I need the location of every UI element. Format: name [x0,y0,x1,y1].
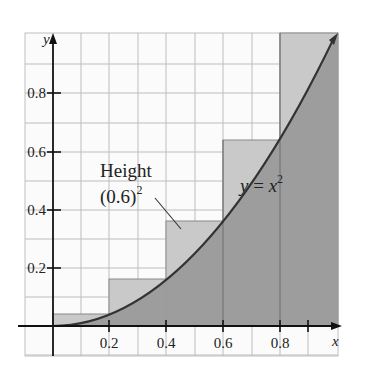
y-tick-label: 0.8 [27,85,46,101]
x-tick-label: 0.8 [271,335,290,351]
y-axis-label: y [41,31,50,47]
chart: 0.2 0.4 0.6 0.8 0.2 0.4 0.6 0.8 y x Heig… [0,0,369,372]
x-tick-label: 0.6 [214,335,233,351]
y-tick-label: 0.2 [27,260,46,276]
y-tick-label: 0.6 [27,144,46,160]
x-tick-label: 0.2 [100,335,119,351]
height-annotation-value: (0.6)2 [100,183,142,208]
height-annotation-word: Height [100,160,152,181]
curve-label: y = x2 [238,172,283,196]
y-tick-label: 0.4 [27,202,46,218]
x-tick-label: 0.4 [157,335,176,351]
x-axis-label: x [331,333,339,349]
